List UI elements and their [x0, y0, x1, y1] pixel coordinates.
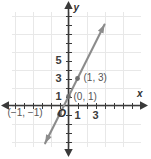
x-axis-arrow-right — [140, 101, 148, 109]
data-point — [75, 76, 80, 81]
line-arrow-down — [45, 134, 52, 143]
x-axis-label: x — [137, 89, 143, 99]
y-axis-arrow-up — [64, 1, 72, 9]
x-tick-label: 1 — [75, 110, 81, 121]
y-tick-label: 5 — [56, 55, 62, 66]
y-axis-label: y — [74, 3, 80, 13]
data-point — [66, 94, 71, 99]
y-tick-label: 3 — [56, 73, 62, 84]
point-label-neg1-neg1: (−1, −1) — [8, 108, 43, 118]
y-tick-label: 1 — [56, 91, 62, 102]
graph-canvas — [0, 0, 151, 159]
y-axis-arrow-down — [64, 149, 72, 157]
point-label-1-3: (1, 3) — [84, 73, 107, 83]
plotted-line — [45, 25, 104, 144]
axes — [1, 1, 148, 157]
point-label-0-1: (0, 1) — [74, 92, 97, 102]
origin-label: O — [58, 108, 67, 119]
x-tick-label: 3 — [93, 110, 99, 121]
line-segment — [45, 25, 104, 144]
line-arrow-up — [98, 25, 105, 34]
coordinate-graph: x y O (−1, −1) (0, 1) (1, 3) 13135 — [0, 0, 151, 159]
